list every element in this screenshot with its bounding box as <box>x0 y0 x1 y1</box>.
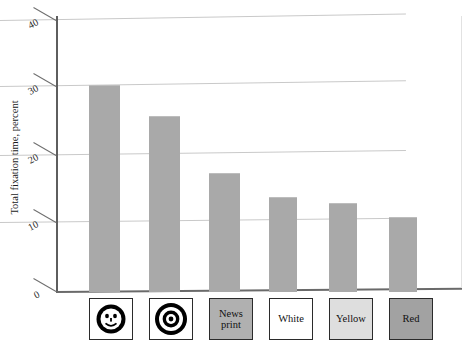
plot-area <box>56 14 462 292</box>
y-axis-title: Total fixation time, percent <box>9 58 20 258</box>
bar-white <box>269 197 297 293</box>
y-tick-label-20: 20 <box>26 151 40 165</box>
y-tick-label-30: 30 <box>26 82 40 96</box>
category-label-white: White <box>278 313 304 325</box>
category-label-yellow: Yellow <box>336 313 366 325</box>
bar-newsprint <box>209 173 240 292</box>
bar-yellow <box>329 203 357 292</box>
category-swatch-white: White <box>269 298 313 340</box>
newsprint-line2: print <box>221 319 241 330</box>
category-label-red: Red <box>403 313 420 325</box>
category-swatch-smiley <box>89 298 133 340</box>
newsprint-line1: News <box>219 308 243 319</box>
bullseye-target-icon <box>154 302 188 336</box>
bar-smiley <box>89 85 120 292</box>
smiley-face-icon <box>94 302 128 336</box>
category-swatch-yellow: Yellow <box>329 298 373 340</box>
bar-red <box>389 217 417 292</box>
category-label-newsprint: News print <box>219 308 243 331</box>
y-tick-label-0: 0 <box>32 288 42 300</box>
category-swatch-newsprint: News print <box>209 298 253 340</box>
y-tick-label-10: 10 <box>26 218 40 232</box>
category-swatch-bullseye <box>149 298 193 340</box>
category-swatch-red: Red <box>389 298 433 340</box>
bar-bullseye <box>149 116 180 293</box>
chart-title-remnant <box>168 0 308 5</box>
chart-figure: Total fixation time, percent 40 30 20 10… <box>0 0 470 346</box>
